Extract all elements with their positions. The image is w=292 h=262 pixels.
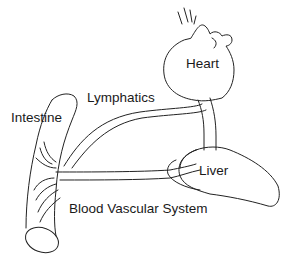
- heart-shape: [164, 8, 234, 101]
- lymphatics-duct: [64, 104, 206, 168]
- diagram-canvas: [0, 0, 292, 262]
- blood-vessel: [56, 164, 200, 180]
- label-liver: Liver: [199, 164, 228, 178]
- label-intestine: Intestine: [11, 111, 62, 125]
- label-blood-vascular-system: Blood Vascular System: [69, 202, 208, 216]
- label-heart: Heart: [186, 57, 219, 71]
- label-lymphatics: Lymphatics: [87, 91, 155, 105]
- heart-liver-vessel: [198, 98, 216, 150]
